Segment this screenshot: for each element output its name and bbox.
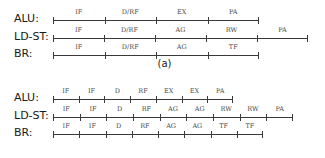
timeline-br-a: IFD/RFAGTF <box>53 39 259 59</box>
pipeline-row-br-b: BR: IFIFDRFAGAGTFTF <box>0 118 325 138</box>
stage-label: IF <box>89 106 96 113</box>
stage-label: AG <box>168 106 178 113</box>
row-label-br-b: BR: <box>14 127 33 138</box>
stage-label: AG <box>192 123 202 130</box>
stage-label: IF <box>75 27 82 34</box>
tick-mark <box>106 131 107 138</box>
stage-label: PA <box>229 9 237 16</box>
stage-label: D <box>117 106 122 113</box>
stage-label: IF <box>89 123 96 130</box>
tick-mark <box>158 131 159 138</box>
stage-label: TF <box>229 44 238 51</box>
tick-mark <box>237 131 238 138</box>
stage-label: EX <box>177 9 186 16</box>
pipeline-row-alu-b: ALU: IFIFDRFEXEXPA <box>0 83 325 103</box>
stage-label: AG <box>177 44 187 51</box>
figure-panel-b: ALU: IFIFDRFEXEXPA LD-ST: IFIFDRFAGAGRWR… <box>0 79 325 158</box>
stage-label: TF <box>219 123 228 130</box>
stage-label: IF <box>63 106 70 113</box>
stage-label: RF <box>142 106 151 113</box>
stage-label: D <box>116 123 121 130</box>
figure-panel-a: ALU: IFD/RFEXPA LD-ST: IFD/RFAGRWPA BR: … <box>0 0 325 79</box>
stage-label: RW <box>247 106 258 113</box>
stage-label: EX <box>190 88 199 95</box>
tick-mark <box>262 131 263 138</box>
axis-line <box>53 99 233 100</box>
tick-mark <box>132 131 133 138</box>
stage-label: AG <box>166 123 176 130</box>
stage-label: AG <box>195 106 205 113</box>
stage-label: IF <box>88 88 95 95</box>
stage-label: D/RF <box>122 44 139 51</box>
caption-a: (a) <box>0 58 325 69</box>
stage-label: RW <box>226 27 237 34</box>
stage-label: IF <box>75 9 82 16</box>
stage-label: IF <box>63 123 70 130</box>
timeline-alu-b: IFIFDRFEXEXPA <box>53 83 233 103</box>
stage-label: D/RF <box>121 27 138 34</box>
tick-mark <box>184 131 185 138</box>
stage-label: RW <box>221 106 232 113</box>
timeline-alu-a: IFD/RFEXPA <box>53 4 259 24</box>
stage-label: PA <box>275 106 283 113</box>
stage-label: AG <box>176 27 186 34</box>
pipeline-row-alu-a: ALU: IFD/RFEXPA <box>0 4 325 24</box>
stage-label: D <box>115 88 120 95</box>
tick-mark <box>79 131 80 138</box>
stage-label: RF <box>140 123 149 130</box>
stage-label: PA <box>216 88 224 95</box>
stage-label: RF <box>138 88 147 95</box>
tick-mark <box>53 131 54 138</box>
stage-label: IF <box>62 88 69 95</box>
stage-label: PA <box>278 27 286 34</box>
caption-a-text: (a) <box>154 58 172 69</box>
tick-mark <box>211 131 212 138</box>
stage-label: TF <box>245 123 254 130</box>
stage-label: EX <box>164 88 173 95</box>
timeline-br-b: IFIFDRFAGAGTFTF <box>53 118 263 138</box>
pipeline-row-br-a: BR: IFD/RFAGTF <box>0 39 325 59</box>
stage-label: IF <box>75 44 82 51</box>
stage-label: D/RF <box>122 9 139 16</box>
